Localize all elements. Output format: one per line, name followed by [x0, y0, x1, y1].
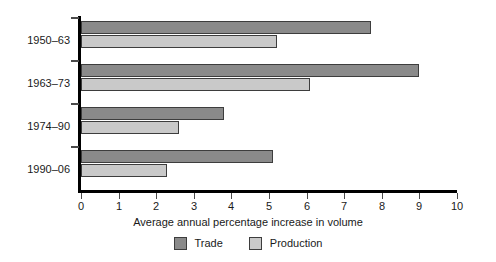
category-label-3: 1990–06 [8, 163, 70, 176]
x-axis-tick-label-9: 9 [404, 200, 434, 213]
bar-trade-0 [81, 21, 371, 34]
bar-production-0 [81, 35, 277, 48]
y-axis-tick [71, 17, 79, 19]
x-axis-tick-label-1: 1 [104, 200, 134, 213]
trade-swatch-icon [174, 237, 187, 250]
x-axis-tick-label-8: 8 [367, 200, 397, 213]
y-axis-tick [71, 60, 79, 62]
x-axis-tick-8 [382, 193, 383, 199]
x-axis-tick-label-6: 6 [292, 200, 322, 213]
category-label-0: 1950–63 [8, 34, 70, 47]
x-axis-tick-9 [419, 193, 420, 199]
x-axis-tick-4 [231, 193, 232, 199]
chart-legend: Trade Production [0, 237, 496, 250]
x-axis-tick-label-5: 5 [254, 200, 284, 213]
category-label-2: 1974–90 [8, 120, 70, 133]
x-axis-tick-0 [81, 193, 82, 199]
x-axis-tick-label-4: 4 [216, 200, 246, 213]
bar-trade-2 [81, 107, 224, 120]
y-axis-tick [71, 103, 79, 105]
bar-trade-1 [81, 64, 419, 77]
legend-label-trade: Trade [195, 237, 223, 250]
x-axis-tick-2 [156, 193, 157, 199]
x-axis-tick-6 [307, 193, 308, 199]
x-axis-tick-1 [119, 193, 120, 199]
x-axis-tick-label-2: 2 [141, 200, 171, 213]
production-swatch-icon [249, 237, 262, 250]
bar-production-2 [81, 121, 179, 134]
x-axis-title: Average annual percentage increase in vo… [0, 215, 496, 229]
y-axis-tick [71, 146, 79, 148]
x-axis-tick-label-10: 10 [442, 200, 472, 213]
x-axis-tick-label-3: 3 [179, 200, 209, 213]
x-axis-tick-label-7: 7 [329, 200, 359, 213]
legend-entry-trade[interactable]: Trade [174, 237, 223, 250]
bar-production-3 [81, 164, 167, 177]
x-axis-line [78, 190, 457, 193]
x-axis-tick-10 [457, 193, 458, 199]
x-axis-tick-3 [194, 193, 195, 199]
plot-area [81, 18, 457, 190]
bar-production-1 [81, 78, 310, 91]
x-axis-tick-5 [269, 193, 270, 199]
legend-entry-production[interactable]: Production [249, 237, 323, 250]
x-axis-tick-7 [344, 193, 345, 199]
bar-chart: 1950–63 1963–73 1974–90 1990–06 01234567… [0, 0, 496, 262]
legend-label-production: Production [270, 237, 323, 250]
x-axis-tick-label-0: 0 [66, 200, 96, 213]
bar-trade-3 [81, 150, 273, 163]
category-label-1: 1963–73 [8, 77, 70, 90]
